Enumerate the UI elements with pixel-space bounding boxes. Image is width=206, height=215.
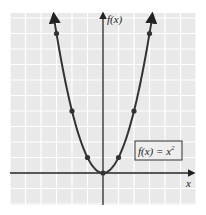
function-label-exponent: 2 (171, 144, 175, 152)
svg-text:f(x) = x2: f(x) = x2 (138, 144, 175, 158)
parabola-chart: x f(x) f(x) = x2 (0, 0, 206, 215)
y-axis-label: f(x) (107, 13, 123, 26)
function-label-box: f(x) = x2 (135, 141, 182, 160)
x-axis-label: x (185, 177, 191, 189)
function-label: f(x) = x (138, 145, 171, 158)
data-point (116, 155, 121, 160)
data-point (147, 31, 152, 36)
data-point (69, 108, 74, 113)
data-point (54, 31, 59, 36)
data-point (100, 170, 105, 175)
data-point (85, 155, 90, 160)
data-point (131, 108, 136, 113)
